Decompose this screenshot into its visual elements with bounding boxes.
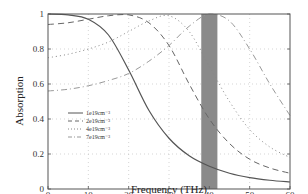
legend-label-3: 4e19cm⁻³	[86, 126, 110, 132]
y-tick-label: 0.2	[33, 149, 44, 159]
legend-label-1: 1e19cm⁻³	[86, 110, 110, 116]
grid-lines	[48, 14, 290, 189]
x-tick-label: 0	[46, 190, 51, 194]
y-tick-label: 0.4	[33, 114, 45, 124]
legend-label-2: 2e19cm⁻³	[86, 118, 110, 124]
x-axis-label: Frequency (THz)	[131, 183, 207, 194]
x-tick-label: 60	[286, 190, 296, 194]
y-tick-label: 0	[40, 184, 45, 194]
x-tick-label: 50	[245, 190, 255, 194]
absorption-chart: 0102030405060 00.20.40.60.81 Frequency (…	[0, 0, 308, 194]
legend-label-4: 7e19cm⁻³	[86, 134, 110, 140]
y-tick-label: 1	[40, 9, 45, 19]
y-tick-label: 0.6	[33, 79, 45, 89]
y-tick-label: 0.8	[33, 44, 45, 54]
x-tick-label: 10	[84, 190, 94, 194]
y-axis-label: Absorption	[13, 76, 25, 126]
legend: 1e19cm⁻³2e19cm⁻³4e19cm⁻³7e19cm⁻³	[68, 110, 110, 140]
series-line-4	[48, 14, 290, 116]
shaded-band	[201, 14, 217, 189]
y-axis-ticks: 00.20.40.60.81	[33, 9, 290, 194]
